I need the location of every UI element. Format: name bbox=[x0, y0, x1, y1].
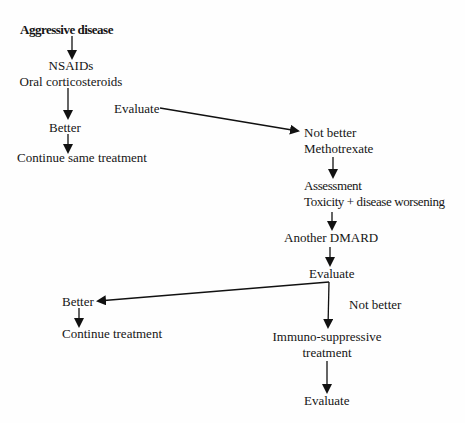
node-better-2: Better bbox=[62, 294, 94, 310]
node-assessment: Assessment Toxicity + disease worsening bbox=[304, 178, 445, 210]
node-immuno-line2: treatment bbox=[262, 345, 392, 361]
node-assessment-line2: Toxicity + disease worsening bbox=[304, 194, 445, 210]
node-evaluate-1: Evaluate bbox=[114, 101, 159, 117]
node-better-1: Better bbox=[49, 120, 81, 136]
node-aggressive-disease: Aggressive disease bbox=[20, 22, 113, 38]
node-not-better-1: Not better bbox=[304, 125, 373, 141]
node-methotrexate: Methotrexate bbox=[304, 141, 373, 157]
node-continue-treatment: Continue treatment bbox=[62, 326, 162, 342]
node-nsaids-line2: Oral corticosteroids bbox=[16, 74, 126, 90]
node-nsaids-line1: NSAIDs bbox=[16, 58, 126, 74]
arrow-evaluate-to-better bbox=[98, 282, 329, 301]
node-continue-same-treatment: Continue same treatment bbox=[17, 150, 147, 166]
node-evaluate-2: Evaluate bbox=[309, 266, 354, 282]
node-immuno-suppressive: Immuno-suppressive treatment bbox=[262, 329, 392, 361]
node-not-better-2: Not better bbox=[349, 297, 401, 313]
node-nsaids: NSAIDs Oral corticosteroids bbox=[16, 58, 126, 90]
arrow-evaluate-to-immuno bbox=[328, 282, 329, 327]
node-another-dmard: Another DMARD bbox=[284, 230, 378, 246]
node-not-better-methotrexate: Not better Methotrexate bbox=[304, 125, 373, 157]
node-assessment-line1: Assessment bbox=[304, 178, 445, 194]
node-evaluate-3: Evaluate bbox=[304, 393, 349, 409]
arrow-evaluate-to-not-better bbox=[160, 108, 298, 131]
node-immuno-line1: Immuno-suppressive bbox=[262, 329, 392, 345]
